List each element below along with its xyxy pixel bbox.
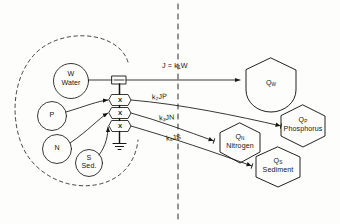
flux-k2-tail: JP <box>158 92 167 101</box>
tank-label-qp-name: Phosphorus <box>276 126 330 133</box>
multiplier-label-x1: X <box>112 97 128 103</box>
flux-k4-tail: JS <box>172 132 181 142</box>
source-label-sediment-name: Sed. <box>76 163 102 170</box>
tank-label-qn: QN <box>224 134 256 142</box>
s-to-multiplier-line <box>99 127 108 155</box>
flux-j-tail: W <box>181 61 188 70</box>
source-label-n: N <box>43 145 71 152</box>
tank-qw-sub: W <box>272 82 277 87</box>
tank-qs-sub: S <box>279 160 282 165</box>
flux-label-j: J = k1W <box>162 62 188 71</box>
source-label-p: P <box>38 112 66 119</box>
flux-label-k3jn: k3JN <box>159 113 175 123</box>
multiplier-label-x3: X <box>112 123 128 129</box>
tank-qn-sub: N <box>241 136 244 141</box>
tank-label-qw: QW <box>255 80 287 88</box>
flux-k3-tail: JN <box>165 112 175 122</box>
n-to-multiplier-line <box>70 113 108 143</box>
tank-qp-sub: P <box>304 119 307 124</box>
flux-j-head: J = k <box>162 61 178 70</box>
tank-label-qs-name: Sediment <box>254 167 302 174</box>
tank-label-qn-name: Nitrogen <box>216 143 264 150</box>
source-label-water-symbol: W <box>55 71 87 78</box>
multiplier-label-x2: X <box>112 110 128 116</box>
diagram-canvas: W Water P N S Sed. X X X J = k1W k2JP k3… <box>0 0 340 224</box>
tank-label-qs: QS <box>262 158 294 166</box>
flux-label-k4js: k4JS <box>166 133 182 143</box>
tank-label-qp: QP <box>287 117 319 125</box>
k2jp-flow-line <box>131 100 281 126</box>
flux-label-k2jp: k2JP <box>152 93 167 103</box>
source-label-water-name: Water <box>55 80 87 87</box>
p-to-multiplier-line <box>66 100 108 112</box>
